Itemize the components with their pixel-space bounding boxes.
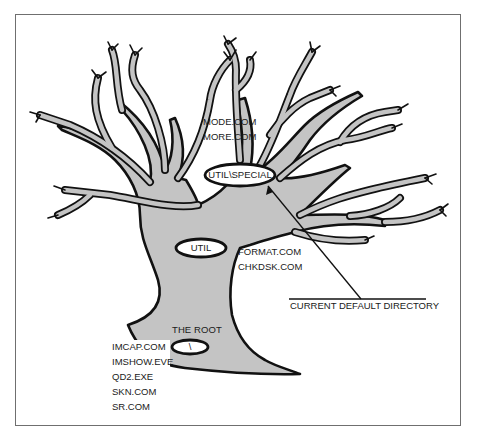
current-default-directory-callout: CURRENT DEFAULT DIRECTORY [290, 300, 439, 311]
util-file-list: FORMAT.COM CHKDSK.COM [238, 244, 302, 274]
file-entry: SR.COM [112, 399, 173, 414]
file-entry: IMCAP.COM [112, 339, 173, 354]
util-node-label: UTIL [176, 242, 226, 253]
file-entry: MORE.COM [203, 129, 256, 144]
file-entry: MODE.COM [203, 114, 256, 129]
root-node-label: \ [180, 341, 200, 352]
root-file-list: IMCAP.COM IMSHOW.EVE QD2.EXE SKN.COM SR.… [112, 339, 173, 414]
file-entry: CHKDSK.COM [238, 259, 302, 274]
root-caption: THE ROOT [172, 322, 222, 337]
file-entry: FORMAT.COM [238, 244, 302, 259]
file-entry: IMSHOW.EVE [112, 354, 173, 369]
tree-illustration [0, 0, 477, 439]
file-entry: QD2.EXE [112, 369, 173, 384]
file-entry: SKN.COM [112, 384, 173, 399]
util-special-node-label: UTIL\SPECIAL [205, 169, 275, 180]
util-special-file-list: MODE.COM MORE.COM [203, 114, 256, 144]
